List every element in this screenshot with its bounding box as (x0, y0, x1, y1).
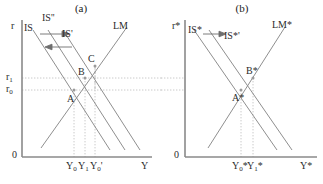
panel-a-origin-label: 0 (12, 149, 17, 160)
curve-label-lm: LM (113, 20, 128, 31)
curve-label-is: IS (24, 22, 33, 33)
panel-a-axes (22, 20, 152, 157)
panel-b-tick-y1-star-mark: * (258, 160, 263, 171)
panel-a: (a) (0, 0, 162, 184)
curve-is-star (194, 30, 277, 150)
panel-a-tick-r0: r0 (6, 83, 13, 94)
panel-b-tick-y0-sub: 0 (239, 165, 243, 173)
panel-b-y-axis-label: r* (172, 20, 180, 31)
panel-b-guidelines (161, 78, 253, 157)
shift-left-arrowhead (45, 44, 52, 50)
panel-a-tick-y0-prime: Y0' (90, 160, 103, 171)
panel-a-x-axis-label: Y (141, 160, 148, 171)
islm-figure: (a) (0, 0, 323, 184)
panel-b-tick-y1-sub: 1 (254, 165, 258, 173)
point-label-a: A (67, 93, 74, 104)
point-c-marker (94, 65, 97, 68)
panel-b: (b) (161, 0, 323, 184)
panel-b-axes (185, 20, 317, 157)
curve-is-star-prime (209, 30, 292, 150)
point-b-star-marker (252, 77, 255, 80)
panel-b-origin-label: 0 (174, 149, 179, 160)
panel-b-tick-y1-star: Y1* (247, 160, 263, 171)
panel-b-x-axis-label: Y* (300, 160, 312, 171)
curve-label-lm-star: LM* (272, 19, 292, 30)
point-label-c: C (88, 53, 95, 64)
curve-label-is-double-prime: IS'' (42, 12, 55, 23)
curve-lm (41, 27, 127, 148)
point-a-marker (73, 89, 76, 92)
panel-a-tick-r1: r1 (6, 71, 13, 82)
point-label-b: B (78, 66, 85, 77)
panel-a-tick-y0: Y0 (66, 160, 77, 171)
panel-a-tick-y0-sub: 0 (73, 165, 77, 173)
panel-b-points (240, 77, 255, 92)
curve-is-double-prime (48, 30, 125, 150)
curve-label-is-prime: IS' (62, 28, 73, 39)
curve-label-is-star-prime: IS*' (224, 30, 240, 41)
panel-b-is-curves (194, 30, 292, 150)
panel-b-tick-y0-star: Y0* (232, 160, 248, 171)
panel-a-tick-y1-sub: 1 (85, 165, 89, 173)
point-label-b-star: B* (246, 65, 258, 76)
curve-label-is-star: IS* (188, 24, 202, 35)
curve-is (33, 30, 110, 150)
panel-a-tick-y1: Y1 (78, 160, 89, 171)
panel-a-tick-y0p-prime: ' (101, 160, 103, 171)
panel-a-tick-r0-sub: 0 (9, 88, 13, 96)
panel-b-arrows (203, 31, 226, 37)
panel-a-y-axis-label: r (11, 20, 14, 31)
panel-a-tick-y0p-sub: 0 (97, 165, 101, 173)
panel-a-guidelines (22, 66, 162, 157)
panel-a-lm-curve (41, 27, 127, 148)
point-label-a-star: A* (232, 92, 244, 103)
